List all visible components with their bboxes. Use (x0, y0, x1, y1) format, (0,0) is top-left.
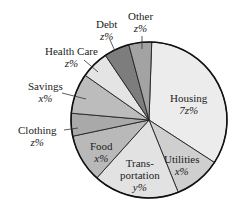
label-savings-value: x% (28, 92, 63, 104)
label-utilities-value: x% (164, 165, 199, 177)
label-housing: Housing 7z% (170, 92, 207, 116)
label-savings: Savings x% (28, 80, 63, 104)
label-health-care-name: Health Care (45, 45, 98, 57)
label-other-name: Other (128, 10, 153, 22)
label-housing-name: Housing (170, 92, 207, 104)
label-utilities-name: Utilities (164, 153, 199, 165)
label-transportation-line1: Trans- (120, 157, 160, 169)
label-housing-value: 7z% (170, 104, 207, 116)
label-clothing: Clothing z% (18, 124, 57, 148)
label-transportation-line2: portation (120, 169, 160, 181)
label-health-care-value: z% (45, 57, 98, 69)
label-debt: Debt z% (96, 18, 117, 42)
label-transportation-value: y% (120, 181, 160, 193)
label-food-value: x% (90, 152, 113, 164)
label-utilities: Utilities x% (164, 153, 199, 177)
label-debt-name: Debt (96, 18, 117, 30)
label-debt-value: z% (96, 30, 117, 42)
label-clothing-name: Clothing (18, 124, 57, 136)
label-clothing-value: z% (18, 136, 57, 148)
label-other-value: z% (128, 22, 153, 34)
label-food-name: Food (90, 140, 113, 152)
label-food: Food x% (90, 140, 113, 164)
label-transportation: Trans- portation y% (120, 157, 160, 193)
label-savings-name: Savings (28, 80, 63, 92)
label-other: Other z% (128, 10, 153, 34)
label-health-care: Health Care z% (45, 45, 98, 69)
